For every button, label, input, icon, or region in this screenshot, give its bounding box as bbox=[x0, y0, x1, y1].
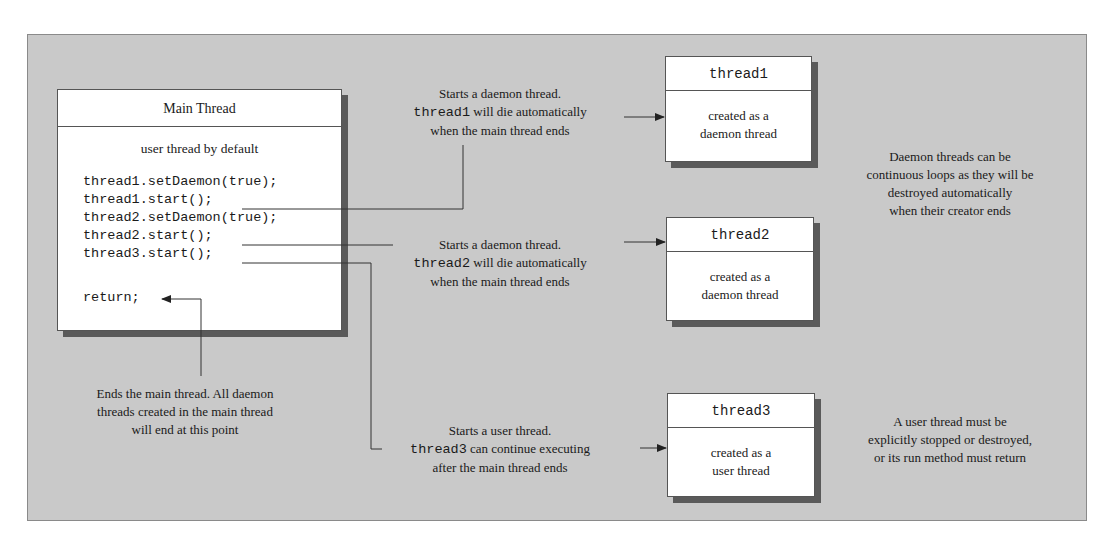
annotation-line: threads created in the main thread bbox=[70, 403, 300, 421]
annotation-line: Starts a daemon thread. bbox=[395, 85, 605, 103]
code-line-1: thread1.setDaemon(true); bbox=[83, 173, 277, 191]
thread3-box: thread3 created as a user thread bbox=[667, 393, 815, 497]
user-thread-note: A user thread must be explicitly stopped… bbox=[840, 413, 1060, 467]
main-thread-title: Main Thread bbox=[58, 90, 341, 127]
annotation-line: after the main thread ends bbox=[385, 459, 615, 477]
annotation-text: will die automatically bbox=[470, 104, 587, 119]
thread2-start-annotation: Starts a daemon thread. thread2 will die… bbox=[395, 236, 605, 291]
annotation-line: Daemon threads can be bbox=[840, 148, 1060, 166]
code-ref: thread3 bbox=[410, 442, 467, 457]
annotation-line: destroyed automatically bbox=[840, 184, 1060, 202]
annotation-line: when the main thread ends bbox=[395, 122, 605, 140]
thread1-body-line1: created as a bbox=[666, 107, 811, 125]
thread3-title: thread3 bbox=[668, 394, 814, 428]
code-ref: thread1 bbox=[413, 105, 470, 120]
code-line-3: thread2.setDaemon(true); bbox=[83, 209, 277, 227]
thread3-body-line1: created as a bbox=[668, 444, 814, 462]
code-line-return: return; bbox=[83, 289, 140, 307]
annotation-line: when their creator ends bbox=[840, 202, 1060, 220]
main-thread-subtitle: user thread by default bbox=[58, 141, 341, 157]
annotation-line: when the main thread ends bbox=[395, 273, 605, 291]
thread2-title: thread2 bbox=[667, 218, 813, 252]
annotation-line: continuous loops as they will be bbox=[840, 166, 1060, 184]
annotation-line: explicitly stopped or destroyed, bbox=[840, 431, 1060, 449]
code-line-5: thread3.start(); bbox=[83, 245, 213, 263]
thread1-start-annotation: Starts a daemon thread. thread1 will die… bbox=[395, 85, 605, 140]
code-line-2: thread1.start(); bbox=[83, 191, 213, 209]
thread3-start-annotation: Starts a user thread. thread3 can contin… bbox=[385, 422, 615, 477]
code-ref: thread2 bbox=[413, 256, 470, 271]
code-line-4: thread2.start(); bbox=[83, 227, 213, 245]
annotation-line: will end at this point bbox=[70, 421, 300, 439]
annotation-line: thread3 can continue executing bbox=[385, 440, 615, 459]
daemon-threads-note: Daemon threads can be continuous loops a… bbox=[840, 148, 1060, 220]
annotation-line: A user thread must be bbox=[840, 413, 1060, 431]
thread1-box: thread1 created as a daemon thread bbox=[665, 56, 812, 162]
thread1-body-line2: daemon thread bbox=[666, 125, 811, 143]
annotation-text: will die automatically bbox=[470, 255, 587, 270]
annotation-line: Starts a user thread. bbox=[385, 422, 615, 440]
annotation-line: or its run method must return bbox=[840, 449, 1060, 467]
main-thread-box: Main Thread user thread by default threa… bbox=[57, 89, 342, 331]
annotation-line: Starts a daemon thread. bbox=[395, 236, 605, 254]
thread2-box: thread2 created as a daemon thread bbox=[666, 217, 814, 321]
return-annotation: Ends the main thread. All daemon threads… bbox=[70, 385, 300, 439]
thread1-title: thread1 bbox=[666, 57, 811, 91]
annotation-line: Ends the main thread. All daemon bbox=[70, 385, 300, 403]
annotation-line: thread1 will die automatically bbox=[395, 103, 605, 122]
thread2-body-line1: created as a bbox=[667, 268, 813, 286]
thread3-body-line2: user thread bbox=[668, 462, 814, 480]
annotation-text: can continue executing bbox=[467, 441, 590, 456]
annotation-line: thread2 will die automatically bbox=[395, 254, 605, 273]
thread2-body-line2: daemon thread bbox=[667, 286, 813, 304]
